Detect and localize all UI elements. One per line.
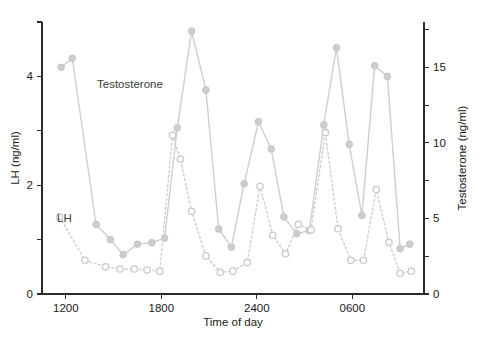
chart-background — [0, 0, 480, 337]
x-axis-tick-label: 0600 — [340, 302, 366, 314]
data-point-testosterone — [188, 28, 195, 35]
testosterone-annotation: Testosterone — [97, 78, 163, 90]
data-point-lh — [373, 186, 379, 192]
data-point-lh — [282, 251, 288, 257]
data-point-testosterone — [241, 180, 248, 187]
data-point-lh — [322, 129, 328, 135]
left-axis-tick-label: 0 — [27, 288, 33, 300]
data-point-lh — [144, 267, 150, 273]
data-point-testosterone — [281, 214, 288, 221]
x-axis-tick-label: 1200 — [53, 302, 79, 314]
data-point-testosterone — [93, 221, 100, 228]
right-axis-tick-label: 15 — [433, 61, 446, 73]
right-axis-title: Testosterone (ng/ml) — [456, 105, 468, 210]
data-point-lh — [157, 268, 163, 274]
data-point-testosterone — [215, 226, 222, 233]
data-point-testosterone — [120, 251, 127, 258]
left-axis-title: LH (ng/ml) — [9, 131, 21, 185]
data-point-lh — [295, 221, 301, 227]
right-axis-tick-label: 5 — [433, 212, 439, 224]
data-point-lh — [308, 227, 314, 233]
data-point-lh — [117, 266, 123, 272]
data-point-testosterone — [148, 239, 155, 246]
data-point-testosterone — [333, 44, 340, 51]
data-point-lh — [203, 253, 209, 259]
data-point-testosterone — [228, 244, 235, 251]
left-axis-tick-label: 2 — [27, 179, 33, 191]
data-point-testosterone — [384, 73, 391, 80]
data-point-lh — [169, 132, 175, 138]
dual-axis-line-chart: 024 051015 1200180024000600 Testosterone… — [0, 0, 480, 337]
x-axis-tick-label: 1800 — [149, 302, 175, 314]
data-point-lh — [244, 259, 250, 265]
data-point-testosterone — [346, 141, 353, 148]
chart-figure: 024 051015 1200180024000600 Testosterone… — [0, 0, 480, 337]
data-point-lh — [131, 266, 137, 272]
data-point-lh — [348, 257, 354, 263]
data-point-lh — [257, 183, 263, 189]
data-point-lh — [102, 264, 108, 270]
data-point-lh — [386, 239, 392, 245]
left-axis-tick-label: 4 — [27, 70, 34, 82]
data-point-lh — [230, 268, 236, 274]
data-point-testosterone — [203, 87, 210, 94]
lh-annotation: LH — [57, 212, 72, 224]
data-point-testosterone — [371, 62, 378, 69]
data-point-testosterone — [255, 118, 262, 125]
data-point-testosterone — [58, 64, 65, 71]
x-axis-tick-label: 2400 — [244, 302, 270, 314]
data-point-testosterone — [107, 236, 114, 243]
data-point-lh — [82, 257, 88, 263]
data-point-lh — [270, 232, 276, 238]
data-point-testosterone — [134, 241, 141, 248]
data-point-testosterone — [406, 241, 413, 248]
data-point-testosterone — [359, 212, 366, 219]
data-point-lh — [188, 208, 194, 214]
data-point-testosterone — [174, 124, 181, 131]
data-point-lh — [217, 269, 223, 275]
data-point-lh — [360, 257, 366, 263]
data-point-lh — [408, 268, 414, 274]
data-point-lh — [177, 156, 183, 162]
data-point-lh — [397, 270, 403, 276]
right-axis-tick-label: 10 — [433, 137, 446, 149]
data-point-lh — [335, 226, 341, 232]
x-axis-title: Time of day — [203, 316, 263, 328]
data-point-testosterone — [320, 121, 327, 128]
right-axis-tick-label: 0 — [433, 288, 439, 300]
data-point-testosterone — [69, 55, 76, 62]
data-point-testosterone — [397, 245, 404, 252]
data-point-testosterone — [268, 146, 275, 153]
